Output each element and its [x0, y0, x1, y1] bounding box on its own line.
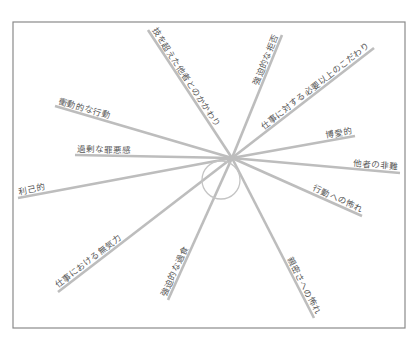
spoke-line — [58, 158, 232, 292]
spoke-line — [232, 158, 314, 318]
labels-group: 技を超えた他者とのかかわり 強迫的な拒否 仕事に対する必要以上のこだわり 博愛的… — [18, 26, 399, 316]
spoke-label-0: 技を超えた他者とのかかわり — [150, 26, 223, 129]
spoke-line — [232, 136, 355, 158]
spoke-label-5: 行動への怖れ — [311, 183, 364, 214]
spoke-line — [148, 30, 232, 158]
spoke-label-6: 親密さへの怖れ — [285, 255, 323, 316]
spoke-label-7: 強迫的な過食 — [159, 244, 190, 297]
spoke-line — [75, 155, 232, 158]
spoke-label-10: 過剰な罪悪感 — [77, 144, 131, 155]
spoke-line — [18, 158, 232, 198]
spoke-line — [168, 158, 232, 300]
spoke-label-2: 仕事に対する必要以上のこだわり — [259, 41, 372, 132]
spoke-label-8: 仕事における無気力 — [53, 233, 123, 290]
spider-diagram: 技を超えた他者とのかかわり 強迫的な拒否 仕事に対する必要以上のこだわり 博愛的… — [0, 0, 415, 339]
